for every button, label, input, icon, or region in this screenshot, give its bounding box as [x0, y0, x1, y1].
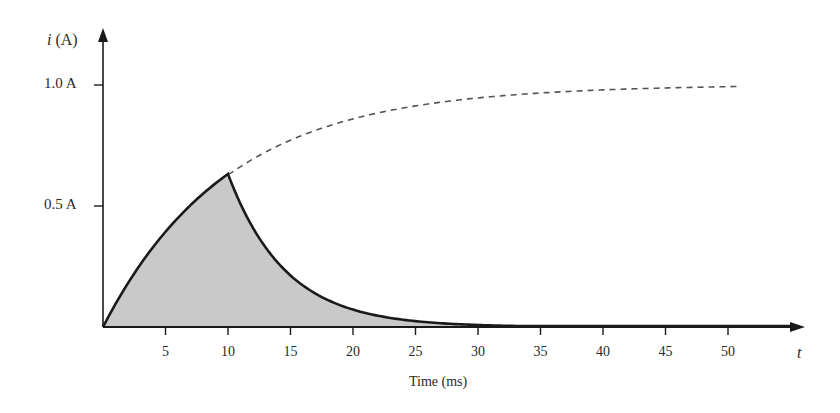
x-tick-label: 5	[162, 344, 169, 360]
y-axis-unit: (A)	[55, 31, 77, 48]
y-axis-arrow-icon	[98, 28, 108, 42]
dashed-curve	[228, 86, 741, 174]
y-axis-label: i (A)	[47, 31, 78, 49]
x-tick-label: 10	[221, 344, 235, 360]
x-ticks	[166, 327, 729, 335]
x-tick-label: 20	[346, 344, 360, 360]
x-tick-label: 25	[409, 344, 423, 360]
shaded-area	[103, 174, 793, 327]
x-tick-label: 30	[471, 344, 485, 360]
x-tick-label: 45	[659, 344, 673, 360]
x-tick-label: 50	[721, 344, 735, 360]
y-tick-label-1: 1.0 A	[44, 75, 77, 92]
y-tick-label-05: 0.5 A	[44, 196, 77, 213]
x-axis-title: Time (ms)	[409, 374, 467, 390]
y-axis-symbol: i	[47, 31, 51, 48]
x-tick-label: 40	[596, 344, 610, 360]
x-tick-label: 35	[534, 344, 548, 360]
x-axis-symbol: t	[797, 344, 801, 362]
x-axis-arrow-icon	[790, 322, 805, 332]
x-tick-label: 15	[284, 344, 298, 360]
